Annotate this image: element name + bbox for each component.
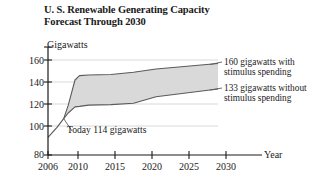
chart-figure: U. S. Renewable Generating Capacity Fore… — [0, 0, 315, 178]
annotation-with-stimulus-line-1: 160 gigawatts with — [224, 57, 295, 67]
annotation-without-stimulus-line-1: 133 gigawatts without — [224, 83, 307, 93]
annotation-without-stimulus: 133 gigawatts without stimulus spending — [224, 83, 307, 104]
annotation-without-stimulus-line-2: stimulus spending — [224, 93, 307, 103]
annotation-with-stimulus: 160 gigawatts with stimulus spending — [224, 57, 295, 78]
annotation-today: Today 114 gigawatts — [67, 125, 146, 135]
annotation-with-stimulus-line-2: stimulus spending — [224, 67, 295, 77]
